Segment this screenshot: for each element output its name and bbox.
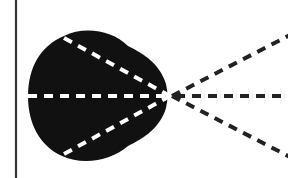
outer-rays xyxy=(172,34,288,158)
outer-ray-upper xyxy=(172,34,288,96)
beam-pattern-diagram xyxy=(0,0,288,178)
outer-ray-lower xyxy=(172,96,288,158)
